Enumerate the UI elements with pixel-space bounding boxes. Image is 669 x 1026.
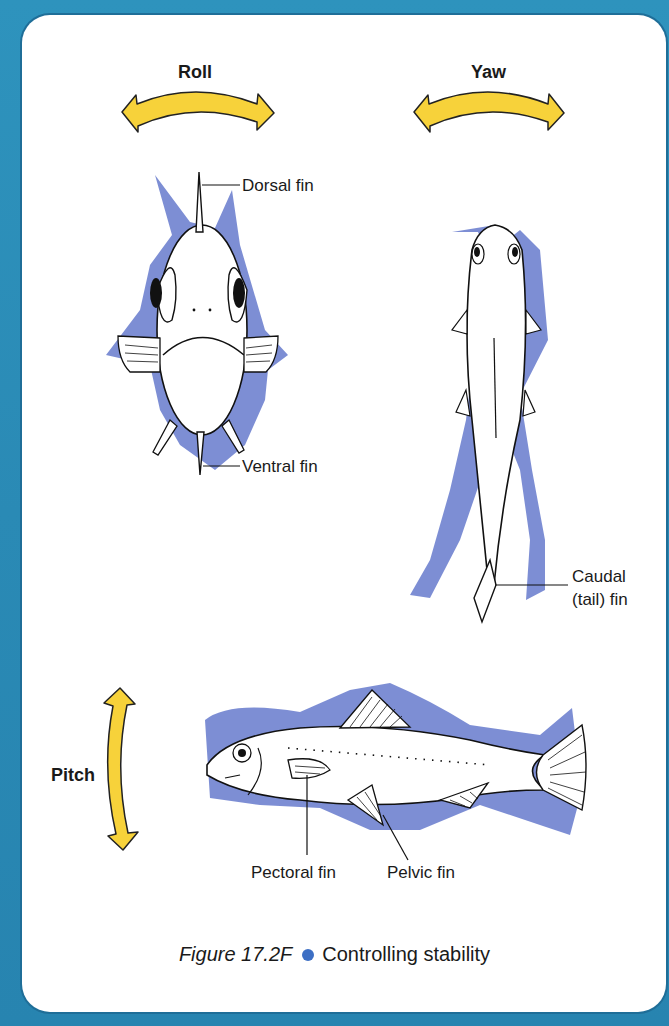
bullet-dot-icon — [302, 949, 314, 961]
pitch-arrow-icon — [104, 688, 138, 850]
pelvic-fin-label: Pelvic fin — [387, 863, 455, 883]
roll-label: Roll — [178, 62, 212, 83]
top-view-fish — [410, 225, 568, 622]
figure-caption: Figure 17.2FControlling stability — [0, 943, 669, 966]
pectoral-fin-label: Pectoral fin — [251, 863, 336, 883]
pitch-label: Pitch — [51, 765, 95, 786]
dorsal-fin-label: Dorsal fin — [242, 176, 314, 196]
figure-title: Controlling stability — [322, 943, 490, 965]
yaw-label: Yaw — [471, 62, 506, 83]
yaw-arrow-icon — [414, 92, 564, 132]
caudal-fin-label-line1: Caudal — [572, 567, 626, 587]
roll-arrow-icon — [122, 92, 274, 132]
side-view-fish — [205, 683, 586, 860]
caudal-fin-label-line2: (tail) fin — [572, 590, 628, 610]
ventral-fin-label: Ventral fin — [242, 457, 318, 477]
figure-number: Figure 17.2F — [179, 943, 292, 965]
front-view-fish — [106, 172, 288, 475]
